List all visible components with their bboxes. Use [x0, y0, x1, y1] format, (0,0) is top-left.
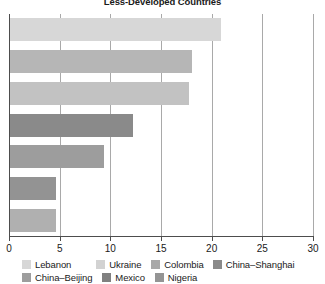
tickmark-20 — [212, 237, 213, 241]
xtick-label-0: 0 — [0, 243, 22, 254]
legend-row-1: LebanonUkraineColombiaChina–Shanghai — [22, 258, 322, 271]
legend-swatch-icon — [96, 260, 105, 269]
legend-row-2: China–BeijingMexicoNigeria — [22, 271, 322, 284]
legend-label: China–Beijing — [35, 272, 92, 283]
legend-label: China–Shanghai — [226, 259, 295, 270]
gridline-30 — [313, 14, 314, 236]
legend-item-china-beijing[interactable]: China–Beijing — [22, 272, 92, 283]
legend-swatch-icon — [213, 260, 222, 269]
legend-label: Ukraine — [109, 259, 141, 270]
legend-swatch-icon — [151, 260, 160, 269]
bar-colombia — [9, 82, 189, 105]
gridline-20 — [212, 14, 213, 236]
y-axis-line — [9, 14, 10, 237]
chart-screenshot: Less-Developed Countries 051015202530 Le… — [0, 0, 325, 284]
gridline-25 — [262, 14, 263, 236]
tickmark-30 — [313, 237, 314, 241]
xtick-label-25: 25 — [249, 243, 275, 254]
chart-legend: LebanonUkraineColombiaChina–Shanghai Chi… — [22, 258, 322, 284]
bar-china-shanghai — [9, 114, 133, 137]
legend-swatch-icon — [102, 273, 111, 282]
legend-label: Nigeria — [168, 272, 197, 283]
legend-swatch-icon — [155, 273, 164, 282]
chart-title: Less-Developed Countries — [0, 0, 325, 7]
gridline-15 — [161, 14, 162, 236]
xtick-label-30: 30 — [300, 243, 325, 254]
legend-label: Mexico — [115, 272, 145, 283]
tickmark-5 — [60, 237, 61, 241]
xtick-label-10: 10 — [97, 243, 123, 254]
legend-item-ukraine[interactable]: Ukraine — [96, 259, 141, 270]
legend-item-colombia[interactable]: Colombia — [151, 259, 203, 270]
tickmark-10 — [110, 237, 111, 241]
legend-item-nigeria[interactable]: Nigeria — [155, 272, 197, 283]
legend-label: Colombia — [164, 259, 203, 270]
bar-lebanon — [9, 18, 221, 41]
legend-item-china-shanghai[interactable]: China–Shanghai — [213, 259, 295, 270]
tickmark-15 — [161, 237, 162, 241]
bar-china-beijing — [9, 145, 104, 168]
bar-ukraine — [9, 50, 192, 73]
xtick-label-20: 20 — [199, 243, 225, 254]
plot-area — [9, 14, 313, 236]
legend-swatch-icon — [22, 273, 31, 282]
tickmark-0 — [9, 237, 10, 241]
bar-nigeria — [9, 209, 56, 232]
legend-item-lebanon[interactable]: Lebanon — [22, 259, 71, 270]
bar-mexico — [9, 177, 56, 200]
legend-swatch-icon — [22, 260, 31, 269]
xtick-label-15: 15 — [148, 243, 174, 254]
legend-label: Lebanon — [35, 259, 71, 270]
tickmark-25 — [262, 237, 263, 241]
xtick-label-5: 5 — [47, 243, 73, 254]
legend-item-mexico[interactable]: Mexico — [102, 272, 145, 283]
